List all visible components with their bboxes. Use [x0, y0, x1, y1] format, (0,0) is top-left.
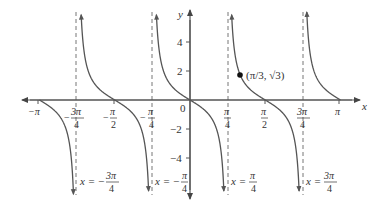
x-tick-neg-pi2-sign: − — [103, 112, 109, 123]
x-tick-neg-pi4-sign: − — [140, 112, 146, 123]
asym-label-1-num: 3π — [105, 170, 117, 181]
x-tick-pi4-den: 4 — [225, 119, 230, 130]
branch-5 — [307, 12, 341, 100]
asym-label-1-prefix: x = − — [79, 175, 105, 187]
x-tick-3pi4-den: 4 — [300, 119, 305, 130]
x-tick-neg-pi2-den: 2 — [111, 119, 116, 130]
asym-label-4-num: 3π — [323, 170, 335, 181]
y-tick-neg2: −2 — [170, 123, 182, 135]
branch-2 — [81, 15, 148, 191]
asym-label-3-prefix: x = — [230, 175, 246, 187]
asym-label-2-prefix: x = − — [154, 175, 180, 187]
origin-label: 0 — [180, 102, 186, 114]
y-tick-neg4: −4 — [170, 152, 182, 164]
point-pi3-sqrt3 — [237, 72, 243, 78]
x-tick-neg-pi2-num: π — [110, 106, 116, 117]
x-tick-neg-3pi4-den: 4 — [74, 119, 79, 130]
x-axis-label: x — [361, 100, 367, 112]
asym-label-4-den: 4 — [327, 183, 332, 194]
y-tick-2: 2 — [177, 65, 183, 77]
asym-label-2-num: π — [182, 170, 188, 181]
y-axis-label: y — [177, 8, 183, 20]
x-tick-neg-pi: −π — [28, 106, 41, 117]
asym-label-3-den: 4 — [251, 183, 256, 194]
x-tick-3pi4-num: 3π — [296, 106, 308, 117]
point-label: (π/3, √3) — [246, 69, 285, 82]
x-tick-pi2-num: π — [261, 106, 267, 117]
asym-label-1-den: 4 — [109, 183, 114, 194]
x-tick-neg-pi4-num: π — [148, 106, 154, 117]
x-tick-pi4-num: π — [224, 106, 230, 117]
tangent-graph: (π/3, √3) x y 0 4 2 −2 −4 −π − 3π 4 − π … — [0, 0, 374, 203]
asym-label-2-den: 4 — [182, 183, 187, 194]
y-tick-4: 4 — [177, 36, 183, 48]
x-tick-pi: π — [335, 106, 341, 117]
asym-label-4-prefix: x = — [305, 175, 321, 187]
asym-label-3-num: π — [250, 170, 256, 181]
x-tick-neg-3pi4-sign: − — [64, 112, 70, 123]
x-tick-neg-pi4-den: 4 — [149, 119, 154, 130]
x-tick-pi2-den: 2 — [262, 119, 267, 130]
x-tick-neg-3pi4-num: 3π — [70, 106, 82, 117]
